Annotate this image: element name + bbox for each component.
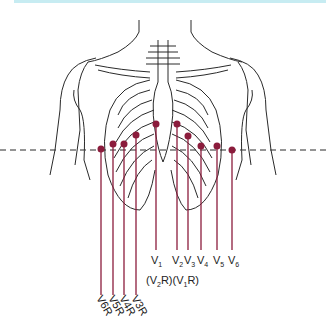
electrode-v6 bbox=[229, 147, 236, 154]
label-v6: V6 bbox=[228, 254, 239, 268]
electrode-v4r bbox=[121, 141, 128, 148]
electrode-v2 bbox=[174, 121, 181, 128]
electrode-v5r bbox=[110, 141, 117, 148]
label-v5: V5 bbox=[213, 254, 224, 268]
body-outline bbox=[50, 20, 276, 210]
label-v4: V4 bbox=[197, 254, 208, 268]
label-v1: V1 bbox=[151, 254, 162, 268]
label-v2: V2 bbox=[172, 254, 183, 268]
chest-diagram: V1 V2 V3 V4 V5 V6 (V2R)(V1R) V6R V5R V4R… bbox=[0, 0, 326, 330]
right-lead-wires bbox=[101, 135, 136, 295]
electrode-v3r bbox=[133, 132, 140, 139]
label-v2r-v1r: (V2R)(V1R) bbox=[146, 274, 199, 288]
electrode-v3 bbox=[185, 133, 192, 140]
electrode-v5 bbox=[214, 143, 221, 150]
electrode-v4 bbox=[198, 143, 205, 150]
electrode-v1 bbox=[153, 121, 160, 128]
label-v3: V3 bbox=[184, 254, 195, 268]
electrode-v6r bbox=[98, 146, 105, 153]
